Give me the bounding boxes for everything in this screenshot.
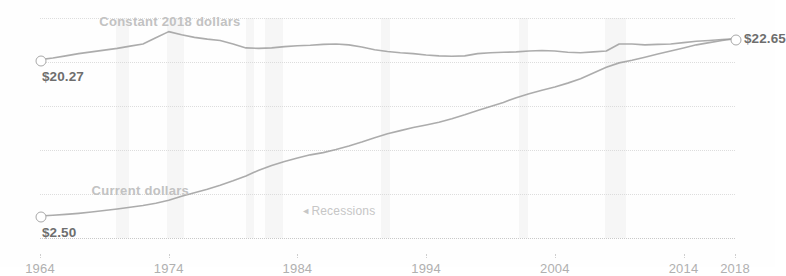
series-lines (40, 18, 735, 238)
x-axis-tick-label: 1974 (154, 261, 184, 276)
x-axis-tick-mark (555, 254, 556, 258)
series-start-value-label: $2.50 (42, 225, 76, 240)
series-end-marker (731, 34, 742, 45)
x-axis-tick-mark (297, 254, 298, 258)
x-axis-tick-label: 2004 (540, 261, 570, 276)
x-axis-tick-mark (169, 254, 170, 258)
series-label: Current dollars (91, 183, 189, 198)
series-start-marker (36, 55, 47, 66)
x-axis-tick-label: 2018 (720, 261, 750, 276)
x-axis-tick-label: 1984 (283, 261, 313, 276)
x-axis-tick-label: 1964 (25, 261, 55, 276)
x-axis-tick-mark (735, 254, 736, 258)
series-start-value-label: $20.27 (42, 69, 84, 84)
series-line (40, 32, 735, 60)
series-label: Constant 2018 dollars (99, 14, 240, 29)
recessions-note: ◄Recessions (301, 204, 375, 218)
x-axis-tick-mark (40, 254, 41, 258)
x-axis-tick-label: 2014 (669, 261, 699, 276)
x-axis-line (40, 238, 735, 239)
x-axis-tick-mark (684, 254, 685, 258)
series-end-value-label: $22.65 (744, 31, 786, 46)
x-axis-tick-label: 1994 (411, 261, 441, 276)
plot-area: $2520151050 1964197419841994200420142018… (40, 18, 735, 238)
x-axis-tick-mark (426, 254, 427, 258)
series-start-marker (36, 212, 47, 223)
left-arrow-icon: ◄ (301, 206, 310, 216)
recessions-label: Recessions (311, 204, 375, 218)
